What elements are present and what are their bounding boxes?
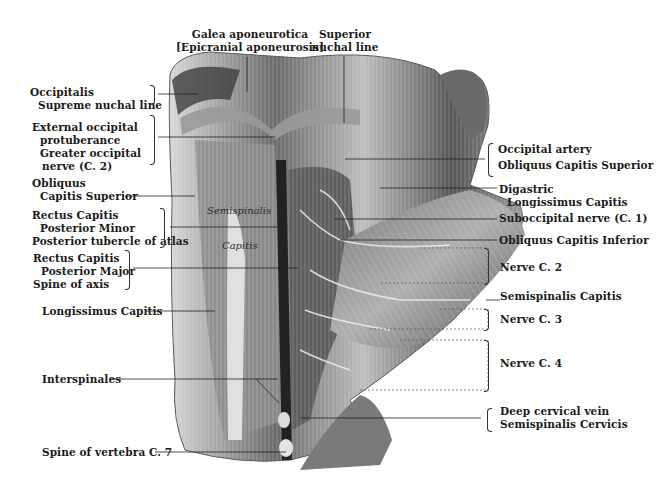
brace-rectus-major (125, 250, 130, 290)
label-rectus-capitis-major: Rectus Capitis Posterior Major Spine of … (33, 252, 135, 291)
brace-deep-cervical (487, 408, 492, 432)
brace-nerve-c2 (484, 248, 489, 285)
brace-occipital-artery (488, 143, 493, 177)
label-interspinales: Interspinales (42, 373, 121, 386)
in-label-capitis: Capitis (222, 240, 258, 251)
label-rectus-capitis-minor: Rectus Capitis Posterior Minor Posterior… (32, 209, 189, 248)
label-nerve-c2: Nerve C. 2 (500, 261, 562, 274)
label-external-occipital: External occipital protuberance Greater … (32, 121, 141, 173)
brace-external-occipital (150, 115, 155, 165)
label-digastric: Digastric Longissimus Capitis (499, 183, 628, 209)
label-nerve-c3: Nerve C. 3 (500, 313, 562, 326)
label-occipital-artery: Occipital artery Obliquus Capitis Superi… (498, 143, 653, 172)
brace-occipitalis (150, 85, 155, 105)
brace-nerve-c4 (484, 340, 489, 392)
label-suboccipital-nerve: Suboccipital nerve (C. 1) (499, 212, 647, 225)
label-occipitalis: Occipitalis Supreme nuchal line (30, 86, 162, 112)
brace-nerve-c3 (484, 309, 489, 331)
label-obliquus-capitis-inferior: Obliquus Capitis Inferior (499, 234, 649, 247)
label-spine-c7: Spine of vertebra C. 7 (42, 446, 172, 459)
brace-rectus-minor (160, 208, 165, 248)
in-label-semispinalis: Semispinalis (207, 205, 271, 216)
label-superior-nuchal-line: Superior nuchal line (305, 28, 385, 54)
label-longissimus-capitis: Longissimus Capitis (42, 305, 163, 318)
label-deep-cervical-vein: Deep cervical vein Semispinalis Cervicis (500, 405, 628, 431)
label-semispinalis-capitis: Semispinalis Capitis (500, 290, 622, 303)
label-nerve-c4: Nerve C. 4 (500, 357, 562, 370)
label-obliquus-capitis-superior: Obliquus Capitis Superior (32, 177, 138, 203)
